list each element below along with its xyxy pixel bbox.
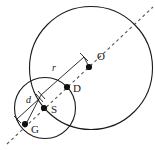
point-label-S: S xyxy=(51,103,57,115)
dashed-center-line xyxy=(7,7,153,144)
point-marker-G xyxy=(22,121,28,127)
geometry-figure: O D S G r d xyxy=(0,0,155,150)
point-label-G: G xyxy=(31,123,39,135)
point-label-D: D xyxy=(73,82,81,94)
point-marker-O xyxy=(86,64,92,70)
dimension-label-r: r xyxy=(52,62,56,73)
geometry-diagram-canvas: O D S G r d xyxy=(0,0,155,150)
point-marker-D xyxy=(64,84,70,90)
point-marker-S xyxy=(41,105,47,111)
dimension-label-d: d xyxy=(26,94,32,105)
point-label-O: O xyxy=(97,50,105,62)
